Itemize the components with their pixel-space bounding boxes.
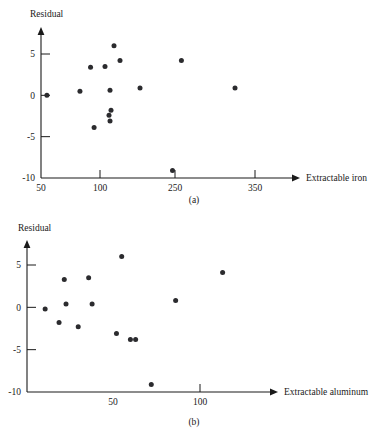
figure-container: 50-5-1050100250350Extractable ironResidu… — [0, 0, 388, 442]
y-tick-label-0: 5 — [30, 49, 35, 59]
y-tick-label-0: 5 — [16, 260, 21, 270]
x-axis-title: Extractable iron — [306, 173, 367, 183]
data-point — [108, 118, 113, 123]
scatter-plot-b: 50-5-1050100Extractable aluminumResidual — [0, 220, 388, 442]
x-tick-label-0: 50 — [36, 183, 46, 193]
data-point — [233, 85, 238, 90]
y-tick-label-2: -5 — [27, 132, 35, 142]
data-point — [109, 108, 114, 113]
caption-b: (b) — [0, 417, 388, 427]
data-point — [86, 275, 91, 280]
scatter-plot-a: 50-5-1050100250350Extractable ironResidu… — [0, 0, 388, 220]
data-point — [77, 89, 82, 94]
data-point — [88, 65, 93, 70]
data-point — [64, 301, 69, 306]
data-point — [44, 93, 49, 98]
data-point — [118, 58, 123, 63]
y-axis-title: Residual — [30, 9, 64, 19]
y-axis-arrow-icon — [38, 27, 45, 35]
x-tick-label-1: 100 — [193, 397, 208, 407]
x-tick-label-0: 50 — [108, 397, 118, 407]
data-point — [173, 298, 178, 303]
data-point — [76, 324, 81, 329]
data-point — [220, 270, 225, 275]
data-point — [90, 301, 95, 306]
data-point — [43, 307, 48, 312]
x-tick-label-2: 250 — [168, 183, 183, 193]
x-tick-label-3: 350 — [248, 183, 263, 193]
y-tick-label-1: 0 — [16, 303, 21, 313]
data-point — [108, 88, 113, 93]
data-point — [107, 113, 112, 118]
plot-a-svg: 50-5-1050100250350Extractable ironResidu… — [0, 0, 388, 220]
data-point — [179, 58, 184, 63]
data-point — [170, 168, 175, 173]
data-point — [133, 337, 138, 342]
y-tick-label-3: -10 — [8, 387, 21, 397]
plot-b-svg: 50-5-1050100Extractable aluminumResidual — [0, 220, 388, 442]
data-point — [92, 125, 97, 130]
data-point — [119, 254, 124, 259]
y-axis-arrow-icon — [24, 240, 31, 248]
y-tick-label-2: -5 — [13, 345, 21, 355]
data-point — [57, 320, 62, 325]
x-tick-label-1: 100 — [93, 183, 108, 193]
data-point — [112, 43, 117, 48]
data-point — [103, 64, 108, 69]
data-point — [114, 331, 119, 336]
caption-a: (a) — [0, 195, 388, 205]
data-point — [149, 382, 154, 387]
data-point — [138, 85, 143, 90]
x-axis-arrow-icon — [270, 389, 278, 396]
data-point — [62, 277, 67, 282]
y-axis-title: Residual — [18, 223, 52, 233]
x-axis-title: Extractable aluminum — [284, 387, 369, 397]
x-axis-arrow-icon — [292, 175, 300, 182]
y-tick-label-1: 0 — [30, 91, 35, 101]
y-tick-label-3: -10 — [22, 173, 35, 183]
data-point — [128, 337, 133, 342]
